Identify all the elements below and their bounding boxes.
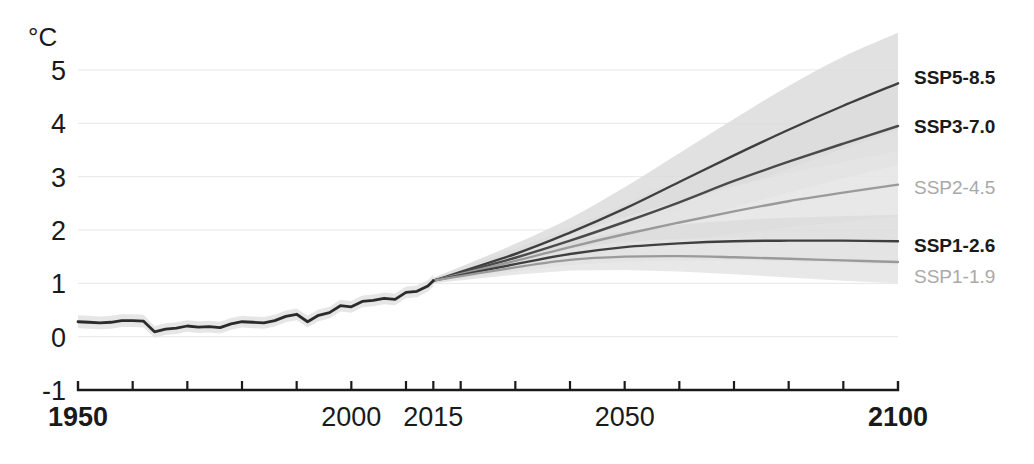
band-layer [78,33,898,338]
series-label-SSP1-2.6: SSP1-2.6 [914,235,995,256]
climate-projection-chart: 543210-119502000201520502100 SSP5-8.5SSP… [0,0,1034,464]
axis-layer [78,381,898,390]
x-tick-label-2000: 2000 [321,402,381,432]
series-label-SSP5-8.5: SSP5-8.5 [914,67,996,88]
y-tick-label-5: 5 [51,56,66,86]
x-axis-line [78,381,898,390]
series-label-SSP1-1.9: SSP1-1.9 [914,266,995,287]
x-tick-label-2050: 2050 [595,402,655,432]
x-tick-label-1950: 1950 [48,402,108,432]
y-tick-label-2: 2 [51,216,66,246]
series-label-SSP2-4.5: SSP2-4.5 [914,177,995,198]
x-tick-label-2015: 2015 [403,402,463,432]
chart-canvas: 543210-119502000201520502100 SSP5-8.5SSP… [0,0,1034,464]
y-axis-unit-label: °C [28,22,57,52]
series-label-layer: SSP5-8.5SSP3-7.0SSP2-4.5SSP1-2.6SSP1-1.9 [914,67,996,287]
series-label-SSP3-7.0: SSP3-7.0 [914,116,995,137]
y-tick-label-1: 1 [51,269,66,299]
y-tick-label-4: 4 [51,109,66,139]
y-tick-label-0: 0 [51,323,66,353]
x-tick-label-2100: 2100 [868,402,928,432]
y-tick-label-3: 3 [51,163,66,193]
uncertainty-band-historical [78,275,433,338]
